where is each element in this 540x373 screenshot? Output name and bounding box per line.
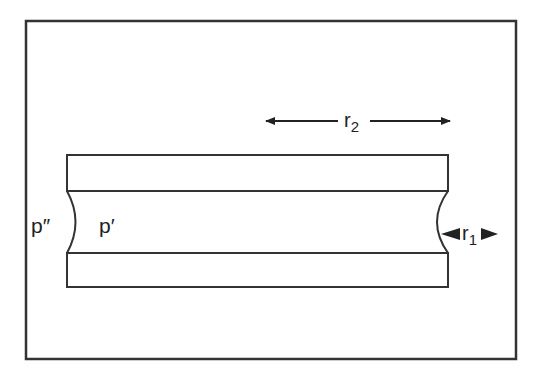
top-plate <box>67 155 448 191</box>
outside-pressure-label: p″ <box>31 214 51 237</box>
r2-dimension-arrow: r2 <box>266 109 450 135</box>
diagram-canvas: r2 r1 p″ p′ <box>0 0 540 373</box>
left-meniscus <box>67 191 76 253</box>
r2-label: r2 <box>344 109 359 135</box>
inside-pressure-label: p′ <box>99 214 115 237</box>
right-meniscus <box>437 191 448 253</box>
r1-label: r1 <box>462 222 477 248</box>
r1-dimension-arrow: r1 <box>441 222 498 248</box>
bottom-plate <box>67 253 448 287</box>
